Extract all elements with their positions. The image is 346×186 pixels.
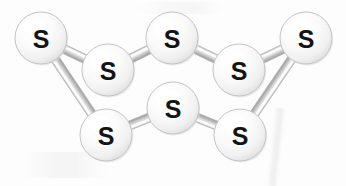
sulfur-atom-2-label: S: [100, 57, 117, 85]
molecule-svg-canvas: SSSSSSSS: [0, 0, 346, 186]
sulfur-atom-6: S: [214, 109, 267, 163]
sulfur-atom-6-label: S: [232, 122, 249, 150]
sulfur-atom-3: S: [146, 12, 199, 66]
sulfur-atom-4: S: [213, 44, 266, 98]
sulfur-atom-7-label: S: [165, 95, 182, 123]
sulfur-atom-2: S: [82, 44, 135, 98]
molecule-diagram: SSSSSSSS: [0, 0, 346, 186]
sulfur-atom-7: S: [147, 82, 200, 136]
sulfur-atom-5-label: S: [298, 25, 315, 53]
sulfur-atom-1-label: S: [33, 25, 50, 53]
sulfur-atom-3-label: S: [164, 25, 181, 53]
atom-layer: SSSSSSSS: [15, 12, 333, 163]
sulfur-atom-1: S: [15, 12, 68, 66]
paper-smudge-top: [120, 2, 240, 14]
sulfur-atom-8-label: S: [98, 122, 115, 150]
sulfur-atom-4-label: S: [231, 57, 248, 85]
paper-smudge-right: [264, 107, 288, 186]
